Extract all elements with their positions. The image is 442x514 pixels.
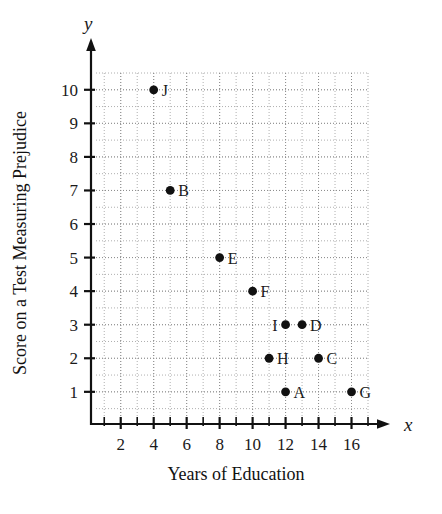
x-tick-label: 2 — [116, 435, 125, 454]
data-point-marker[interactable] — [166, 186, 175, 195]
x-tick-label: 8 — [215, 435, 224, 454]
x-axis-arrowhead — [377, 419, 390, 429]
x-tick-label: 6 — [182, 435, 191, 454]
x-tick-label: 10 — [244, 435, 261, 454]
data-point-label: I — [272, 317, 277, 334]
data-point-group: ABCDEFGHIJ — [149, 82, 371, 401]
data-point[interactable]: H — [265, 350, 289, 367]
y-tick-label: 2 — [70, 349, 79, 368]
data-point-label: G — [360, 384, 372, 401]
y-axis-title: Score on a Test Measuring Prejudice — [10, 111, 30, 375]
data-point-marker[interactable] — [314, 354, 323, 363]
y-tick-label: 10 — [61, 81, 78, 100]
axis-lines — [86, 38, 390, 429]
y-tick-label: 9 — [70, 114, 79, 133]
scatter-plot-figure: 12345678910 246810121416 x y ABCDEFGHIJ … — [0, 0, 442, 514]
data-point[interactable]: F — [248, 283, 269, 300]
data-point-label: J — [162, 82, 168, 99]
data-point-label: C — [327, 350, 338, 367]
y-tick-label: 5 — [70, 249, 79, 268]
chart-canvas: 12345678910 246810121416 x y ABCDEFGHIJ … — [0, 0, 442, 514]
y-axis-ticks — [84, 90, 95, 392]
x-tick-label: 16 — [343, 435, 360, 454]
y-tick-label: 3 — [70, 316, 79, 335]
data-point[interactable]: J — [149, 82, 168, 99]
data-point-marker[interactable] — [281, 320, 290, 329]
data-point[interactable]: E — [215, 250, 237, 267]
y-axis-variable-name: y — [82, 13, 93, 34]
data-point[interactable]: G — [347, 384, 371, 401]
data-point-marker[interactable] — [149, 85, 158, 94]
x-axis-title: Years of Education — [167, 464, 304, 484]
data-point-marker[interactable] — [265, 354, 274, 363]
data-point-marker[interactable] — [347, 387, 356, 396]
data-point-label: A — [294, 384, 306, 401]
data-point-marker[interactable] — [215, 253, 224, 262]
data-point-marker[interactable] — [248, 287, 257, 296]
x-axis-variable-name: x — [403, 414, 413, 435]
x-tick-label: 14 — [310, 435, 328, 454]
x-axis-tick-labels: 246810121416 — [116, 435, 360, 454]
data-point[interactable]: I — [272, 317, 290, 334]
data-point[interactable]: B — [166, 182, 189, 199]
y-axis-arrowhead — [86, 38, 96, 51]
data-point-marker[interactable] — [281, 387, 290, 396]
y-tick-label: 6 — [70, 215, 79, 234]
y-tick-label: 8 — [70, 148, 79, 167]
y-tick-label: 4 — [70, 282, 79, 301]
x-tick-label: 4 — [149, 435, 158, 454]
data-point-marker[interactable] — [298, 320, 307, 329]
y-tick-label: 1 — [70, 383, 79, 402]
x-tick-label: 12 — [277, 435, 294, 454]
data-point[interactable]: D — [298, 317, 322, 334]
data-point-label: E — [228, 250, 238, 267]
data-point-label: H — [277, 350, 289, 367]
data-point-label: D — [310, 317, 322, 334]
data-point-label: F — [261, 283, 270, 300]
y-axis-tick-labels: 12345678910 — [61, 81, 79, 402]
y-tick-label: 7 — [70, 181, 79, 200]
data-point-label: B — [178, 182, 189, 199]
data-point[interactable]: C — [314, 350, 337, 367]
data-point[interactable]: A — [281, 384, 305, 401]
